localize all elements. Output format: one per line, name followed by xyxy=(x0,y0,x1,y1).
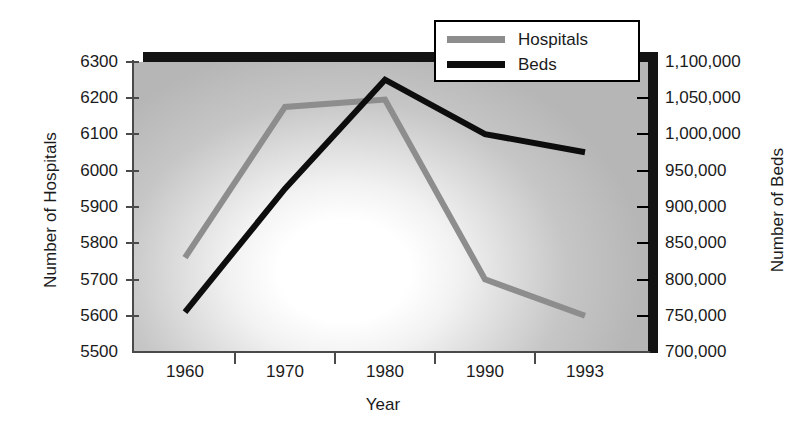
x-axis-title: Year xyxy=(283,395,483,415)
right-axis-label-4: 900,000 xyxy=(665,197,785,217)
right-tick-950000 xyxy=(637,170,649,172)
right-axis-label-2: 1,000,000 xyxy=(665,124,785,144)
x-tick-3 xyxy=(434,352,436,364)
legend-label-beds: Beds xyxy=(518,56,557,73)
x-axis-label-1990: 1990 xyxy=(440,362,530,382)
right-tick-850000 xyxy=(637,242,649,244)
right-axis-label-6: 800,000 xyxy=(665,270,785,290)
right-axis-label-7: 750,000 xyxy=(665,306,785,326)
plot-area xyxy=(133,62,648,352)
x-axis-label-1960: 1960 xyxy=(140,362,230,382)
right-axis-label-3: 950,000 xyxy=(665,161,785,181)
legend-label-hospitals: Hospitals xyxy=(518,31,588,48)
x-axis-label-1970: 1970 xyxy=(240,362,330,382)
x-axis-label-1993: 1993 xyxy=(540,362,630,382)
legend: Hospitals Beds xyxy=(434,20,640,82)
right-tick-750000 xyxy=(637,315,649,317)
bottom-axis-line xyxy=(132,351,650,353)
chart-figure: 6300 6200 6100 6000 5900 5800 5700 5600 … xyxy=(0,0,807,437)
right-axis-label-5: 850,000 xyxy=(665,233,785,253)
left-tick-5700 xyxy=(126,279,139,281)
right-axis-label-1: 1,050,000 xyxy=(665,88,785,108)
legend-item-beds: Beds xyxy=(436,52,638,77)
left-tick-5600 xyxy=(126,315,139,317)
plot-frame-right-bar xyxy=(648,52,658,353)
left-axis-label-8: 5500 xyxy=(38,342,118,362)
left-tick-5900 xyxy=(126,206,139,208)
left-tick-6000 xyxy=(126,170,139,172)
legend-swatch-hospitals-icon xyxy=(447,36,505,43)
right-axis-title: Number of Beds xyxy=(768,85,792,335)
x-tick-1 xyxy=(234,352,236,364)
legend-item-hospitals: Hospitals xyxy=(436,27,638,52)
x-tick-4 xyxy=(534,352,536,364)
right-tick-800000 xyxy=(637,279,649,281)
left-tick-6300 xyxy=(126,61,139,63)
legend-swatch-beds-icon xyxy=(447,61,505,68)
x-tick-2 xyxy=(334,352,336,364)
right-tick-1000000 xyxy=(637,133,649,135)
right-tick-1050000 xyxy=(637,97,649,99)
left-tick-5800 xyxy=(126,242,139,244)
left-axis-label-0: 6300 xyxy=(38,52,118,72)
left-axis-title: Number of Hospitals xyxy=(41,85,65,335)
x-axis-label-1980: 1980 xyxy=(340,362,430,382)
right-axis-label-8: 700,000 xyxy=(665,342,785,362)
right-tick-900000 xyxy=(637,206,649,208)
left-tick-6100 xyxy=(126,133,139,135)
right-axis-label-0: 1,100,000 xyxy=(665,52,785,72)
left-tick-6200 xyxy=(126,97,139,99)
